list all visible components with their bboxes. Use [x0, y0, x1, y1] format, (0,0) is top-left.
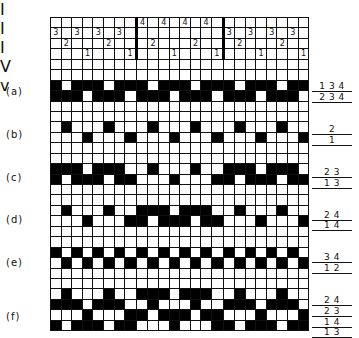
grid-cell	[51, 195, 62, 205]
grid-cell	[190, 205, 201, 215]
grid-cell	[125, 320, 137, 330]
grid-cell	[298, 320, 309, 330]
grid-cell	[288, 278, 299, 288]
grid-cell	[82, 226, 93, 236]
drawdown-row-e-34	[51, 247, 309, 257]
grid-cell	[235, 195, 246, 205]
grid-cell	[93, 289, 104, 299]
grid-cell	[298, 278, 309, 288]
grid-cell	[235, 70, 246, 80]
grid-cell: 4	[180, 18, 191, 28]
grid-cell	[136, 299, 148, 309]
grid-cell	[82, 174, 93, 184]
threading-row-shaft-4: 4444	[51, 18, 309, 28]
grid-cell	[136, 310, 148, 320]
grid-cell	[180, 143, 191, 153]
grid-cell	[235, 101, 246, 111]
grid-cell	[235, 320, 246, 330]
grid-cell	[211, 174, 223, 184]
grid-cell	[61, 268, 72, 278]
grid-cell	[256, 320, 267, 330]
grid-cell	[82, 38, 93, 48]
grid-cell	[288, 195, 299, 205]
grid-cell	[51, 80, 62, 90]
pattern-label: (b)	[6, 129, 23, 140]
grid-cell: 1	[169, 49, 180, 59]
grid-cell: 2	[190, 38, 201, 48]
grid-cell	[180, 226, 191, 236]
grid-cell	[201, 59, 212, 69]
grid-cell	[82, 247, 93, 257]
grid-cell	[148, 153, 159, 163]
grid-cell	[103, 164, 114, 174]
grid-cell	[148, 320, 159, 330]
grid-cell	[223, 80, 235, 90]
grid-cell	[201, 258, 212, 268]
grid-cell	[256, 216, 267, 226]
grid-cell	[93, 310, 104, 320]
grid-cell	[235, 111, 246, 121]
grid-cell	[277, 111, 288, 121]
grid-cell	[93, 49, 104, 59]
grid-cell	[245, 111, 256, 121]
grid-cell	[169, 164, 180, 174]
grid-cell	[61, 70, 72, 80]
grid-cell	[245, 174, 256, 184]
grid-cell	[245, 153, 256, 163]
grid-cell	[72, 268, 83, 278]
grid-cell	[223, 18, 235, 28]
grid-cell	[125, 91, 137, 101]
grid-cell	[201, 132, 212, 142]
drawdown-row-d-14	[51, 216, 309, 226]
grid-cell	[82, 299, 93, 309]
lift-label: 2 3 4	[312, 92, 352, 103]
grid-cell	[245, 258, 256, 268]
grid-cell: 3	[245, 28, 256, 38]
grid-cell	[158, 91, 169, 101]
spacer-row	[51, 185, 309, 195]
grid-cell	[103, 247, 114, 257]
grid-cell	[158, 258, 169, 268]
grid-cell	[148, 299, 159, 309]
grid-cell	[51, 278, 62, 288]
drawdown-row-c-13	[51, 174, 309, 184]
grid-cell	[93, 185, 104, 195]
grid-cell	[180, 59, 191, 69]
grid-cell	[82, 28, 93, 38]
grid-cell	[288, 122, 299, 132]
grid-cell	[169, 226, 180, 236]
grid-cell	[93, 247, 104, 257]
grid-cell	[211, 205, 223, 215]
grid-cell	[235, 299, 246, 309]
grid-cell	[223, 153, 235, 163]
grid-cell	[103, 59, 114, 69]
grid-cell	[136, 278, 148, 288]
grid-cell	[190, 153, 201, 163]
grid-cell	[223, 101, 235, 111]
grid-cell	[201, 278, 212, 288]
grid-cell	[125, 226, 137, 236]
grid-cell	[298, 310, 309, 320]
grid-cell	[190, 226, 201, 236]
grid-cell	[103, 111, 114, 121]
drawdown-row-f-14	[51, 310, 309, 320]
grid-cell	[72, 38, 83, 48]
grid-cell	[288, 111, 299, 121]
grid-cell	[180, 289, 191, 299]
grid-cell	[288, 70, 299, 80]
grid-cell	[61, 111, 72, 121]
grid-cell	[223, 111, 235, 121]
grid-cell	[125, 101, 137, 111]
drawdown-row-a-134	[51, 80, 309, 90]
grid-cell	[158, 174, 169, 184]
grid-cell	[298, 195, 309, 205]
grid-cell	[125, 111, 137, 121]
grid-cell	[298, 299, 309, 309]
grid-cell	[235, 18, 246, 28]
grid-cell	[114, 38, 125, 48]
grid-cell	[51, 111, 62, 121]
grid-cell	[235, 174, 246, 184]
grid-cell: 1	[125, 49, 137, 59]
grid-cell	[72, 70, 83, 80]
grid-cell	[180, 320, 191, 330]
